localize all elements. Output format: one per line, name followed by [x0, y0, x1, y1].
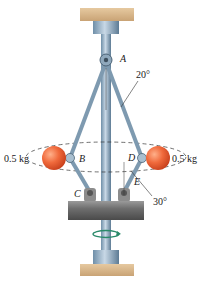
label-angle-30: 30°	[153, 196, 167, 207]
sliding-collar	[68, 201, 144, 220]
pivot-D	[138, 154, 147, 163]
mass-left	[42, 146, 66, 170]
label-A: A	[119, 53, 127, 64]
label-E: E	[133, 176, 140, 187]
top-support	[80, 8, 134, 21]
label-D: D	[127, 152, 136, 163]
mechanism-diagram: A 20° B D C E 30° 0.5 kg 0.5 kg	[0, 0, 205, 282]
label-B: B	[79, 153, 85, 164]
bottom-support	[80, 264, 134, 276]
angle-20-leader	[121, 81, 138, 107]
mass-right	[146, 146, 170, 170]
arm-AB	[70, 62, 106, 158]
label-mass-right: 0.5 kg	[172, 153, 197, 164]
label-angle-20: 20°	[136, 69, 150, 80]
top-bearing	[93, 21, 119, 34]
bottom-bearing	[93, 250, 119, 264]
pivot-B	[66, 154, 75, 163]
label-C: C	[74, 188, 81, 199]
label-mass-left: 0.5 kg	[4, 153, 29, 164]
